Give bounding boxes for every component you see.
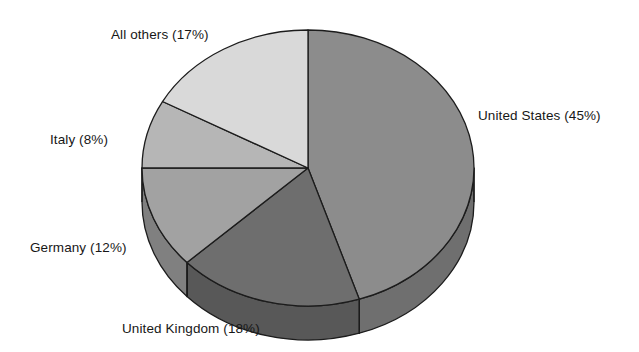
pie-chart-figure: United States (45%) United Kingdom (18%)…	[0, 0, 639, 352]
slice-label-all-others: All others (17%)	[111, 27, 209, 43]
slice-label-germany: Germany (12%)	[30, 240, 127, 256]
slice-label-united-kingdom: United Kingdom (18%)	[122, 321, 260, 337]
slice-label-italy: Italy (8%)	[50, 132, 108, 148]
pie-slice-tops	[142, 30, 474, 306]
slice-label-united-states: United States (45%)	[478, 108, 601, 124]
pie-chart-graphic	[0, 0, 639, 352]
